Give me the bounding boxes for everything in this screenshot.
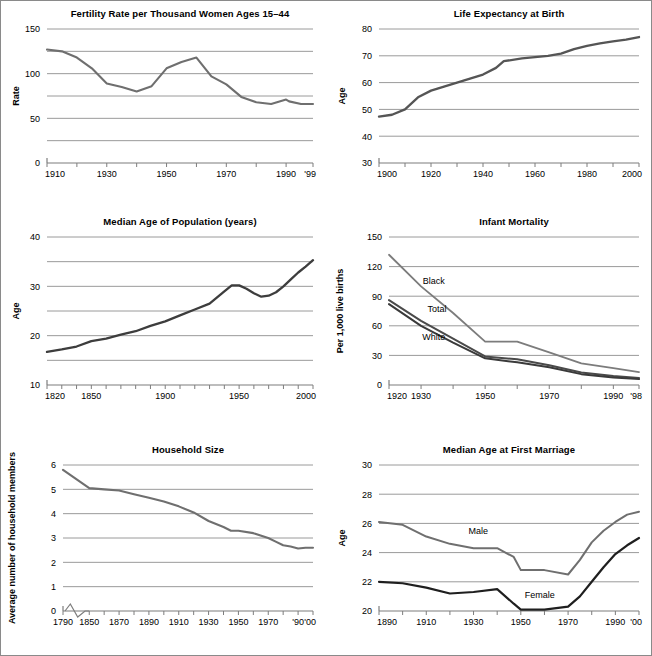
x-tick-label: 1910 [169, 617, 189, 627]
y-tick-label: 24 [362, 548, 372, 558]
x-tick-label: 2000 [296, 391, 316, 401]
y-tick-label: 3 [51, 533, 56, 543]
x-tick-label: 1910 [416, 617, 436, 627]
chart-panel-infant-mortality: Infant Mortality030609012015019201930195… [327, 201, 652, 429]
y-tick-label: 2 [51, 558, 56, 568]
series-label-white: White [422, 332, 445, 342]
x-tick-label: 1920 [421, 169, 441, 179]
series-line-household-size [63, 470, 313, 549]
x-tick-label: 1990 [603, 391, 623, 401]
x-tick-label: 1950 [475, 391, 495, 401]
x-tick-label: 2000 [622, 169, 642, 179]
y-tick-label: 80 [362, 24, 372, 34]
x-tick-label: 1970 [216, 169, 236, 179]
y-tick-label: 28 [362, 490, 372, 500]
x-tick-label: 1790 [53, 617, 73, 627]
x-tick-label: 1930 [199, 617, 219, 627]
x-tick-label: '00 [304, 617, 316, 627]
series-line-median-age [47, 260, 313, 352]
chart-title: Household Size [152, 444, 224, 455]
y-tick-label: 22 [362, 577, 372, 587]
y-tick-label: 0 [35, 158, 40, 168]
x-tick-label: 1870 [109, 617, 129, 627]
chart-title: Median Age of Population (years) [103, 216, 256, 227]
chart-svg-median-age-first-marriage: Median Age at First Marriage202224262830… [327, 429, 652, 656]
y-tick-label: 10 [30, 380, 40, 390]
series-line-male [379, 512, 639, 575]
chart-panel-fertility-rate: Fertility Rate per Thousand Women Ages 1… [1, 1, 327, 201]
y-tick-label: 40 [362, 132, 372, 142]
chart-panel-household-size: Household Size01234561790185018701890191… [1, 429, 327, 656]
x-tick-label: 1970 [258, 617, 278, 627]
demographic-charts-figure: Fertility Rate per Thousand Women Ages 1… [0, 0, 652, 656]
y-axis-label: Per 1,000 live births [335, 269, 345, 354]
chart-svg-fertility-rate: Fertility Rate per Thousand Women Ages 1… [1, 1, 327, 201]
y-tick-label: 50 [30, 114, 40, 124]
y-tick-label: 26 [362, 519, 372, 529]
x-tick-label: 1900 [377, 169, 397, 179]
chart-svg-household-size: Household Size01234561790185018701890191… [1, 429, 327, 656]
y-tick-label: 150 [367, 232, 382, 242]
x-tick-label: 1960 [525, 169, 545, 179]
y-tick-label: 30 [30, 282, 40, 292]
y-tick-label: 1 [51, 582, 56, 592]
y-axis-label: Age [11, 302, 21, 319]
chart-title: Fertility Rate per Thousand Women Ages 1… [71, 8, 290, 19]
y-tick-label: 50 [362, 105, 372, 115]
chart-panel-median-age-population: Median Age of Population (years)10203040… [1, 201, 327, 429]
x-tick-label: '99 [304, 169, 316, 179]
x-tick-label: 1920 [387, 391, 407, 401]
x-tick-label: 1950 [228, 617, 248, 627]
y-tick-label: 30 [362, 460, 372, 470]
y-tick-label: 30 [362, 158, 372, 168]
x-tick-label: 1850 [81, 391, 101, 401]
chart-title: Median Age at First Marriage [443, 444, 575, 455]
series-label-total: Total [428, 304, 447, 314]
x-tick-label: 1950 [229, 391, 249, 401]
y-axis-label: Average number of household members [7, 452, 17, 624]
x-tick-label: 1980 [577, 169, 597, 179]
y-tick-label: 4 [51, 509, 56, 519]
y-tick-label: 120 [367, 262, 382, 272]
chart-title: Life Expectancy at Birth [454, 8, 565, 19]
x-tick-label: '00 [630, 617, 642, 627]
x-tick-label: 1930 [97, 169, 117, 179]
chart-svg-infant-mortality: Infant Mortality030609012015019201930195… [327, 201, 652, 429]
series-label-female: Female [525, 590, 555, 600]
y-tick-label: 90 [372, 292, 382, 302]
chart-svg-life-expectancy: Life Expectancy at Birth3040506070801900… [327, 1, 652, 201]
y-tick-label: 150 [25, 24, 40, 34]
chart-panel-life-expectancy: Life Expectancy at Birth3040506070801900… [327, 1, 652, 201]
chart-panel-median-age-first-marriage: Median Age at First Marriage202224262830… [327, 429, 652, 656]
x-tick-label: 1990 [605, 617, 625, 627]
y-axis-label: Age [337, 87, 347, 104]
y-tick-label: 5 [51, 485, 56, 495]
y-tick-label: 20 [30, 331, 40, 341]
series-line-black [389, 255, 639, 372]
x-tick-label: 1890 [139, 617, 159, 627]
x-tick-label: 1890 [377, 617, 397, 627]
y-tick-label: 6 [51, 460, 56, 470]
x-tick-label: 1850 [79, 617, 99, 627]
y-tick-label: 0 [51, 606, 56, 616]
y-tick-label: 70 [362, 51, 372, 61]
series-label-male: Male [469, 526, 489, 536]
y-axis-label: Rate [11, 86, 21, 106]
chart-title: Infant Mortality [479, 216, 549, 227]
x-tick-label: '98 [630, 391, 642, 401]
x-tick-label: 1970 [539, 391, 559, 401]
chart-svg-median-age-population: Median Age of Population (years)10203040… [1, 201, 327, 429]
x-tick-label: 1930 [464, 617, 484, 627]
x-tick-label: '90 [292, 617, 304, 627]
x-tick-label: 1950 [157, 169, 177, 179]
series-line-female [379, 538, 639, 610]
x-tick-label: 1970 [558, 617, 578, 627]
series-line-life-expectancy [379, 37, 639, 117]
series-label-black: Black [423, 276, 446, 286]
y-tick-label: 0 [377, 380, 382, 390]
x-tick-label: 1990 [276, 169, 296, 179]
x-tick-label: 1950 [511, 617, 531, 627]
x-tick-label: 1820 [45, 391, 65, 401]
y-axis-label: Age [337, 529, 347, 546]
y-tick-label: 60 [362, 78, 372, 88]
